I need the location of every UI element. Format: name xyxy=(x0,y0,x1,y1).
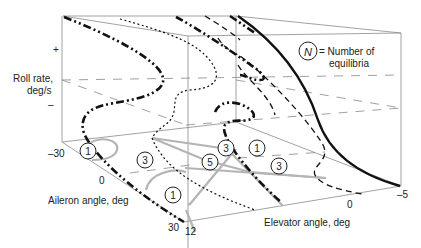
svg-text:3: 3 xyxy=(142,155,148,166)
svg-text:3: 3 xyxy=(276,161,282,172)
elevator-tick: 12 xyxy=(185,226,197,237)
tick-plus: + xyxy=(53,44,59,55)
roll-rate-label-line2: deg/s xyxy=(27,85,51,96)
dashed-curve xyxy=(238,65,275,115)
svg-text:5: 5 xyxy=(207,157,213,168)
legend-text-line2: equilibria xyxy=(329,58,369,69)
region-badge: 1 xyxy=(165,187,181,203)
aileron-axis-label: Aileron angle, deg xyxy=(48,195,129,206)
equilibrium-diagram: 1 3 1 3 5 1 3 N = Number of eq xyxy=(0,0,421,248)
zero-plane-line xyxy=(186,108,401,125)
elevator-tick: –5 xyxy=(397,189,409,200)
svg-text:1: 1 xyxy=(85,146,91,157)
zero-plane-line xyxy=(62,75,401,80)
dotted-curves xyxy=(120,19,255,210)
svg-text:1: 1 xyxy=(254,143,260,154)
svg-text:1: 1 xyxy=(170,190,176,201)
aileron-axis: –30 0 30 Aileron angle, deg xyxy=(48,148,180,233)
roll-rate-axis: + – Roll rate, deg/s xyxy=(13,44,59,110)
legend-symbol: N xyxy=(304,46,312,58)
svg-text:3: 3 xyxy=(223,143,229,154)
solid-equilibrium-curve xyxy=(238,16,400,186)
region-badge: 5 xyxy=(202,154,218,170)
aileron-tick: 30 xyxy=(168,222,180,233)
region-badge: 3 xyxy=(271,158,287,174)
aileron-tick: 0 xyxy=(99,175,105,186)
region-badge: 1 xyxy=(249,140,265,156)
elevator-tick: 0 xyxy=(347,199,353,210)
dotted-curve xyxy=(120,19,255,210)
zero-plane-line xyxy=(236,80,401,108)
region-badge: 3 xyxy=(137,152,153,168)
legend: N = Number of equilibria xyxy=(299,42,375,69)
legend-text-line1: = Number of xyxy=(319,46,375,57)
roll-rate-label-line1: Roll rate, xyxy=(13,73,53,84)
elevator-axis: 12 0 –5 Elevator angle, deg xyxy=(185,189,409,237)
aileron-tick: –30 xyxy=(48,148,65,159)
zero-plane-grid xyxy=(62,75,401,173)
elevator-axis-label: Elevator angle, deg xyxy=(264,217,350,228)
region-badge: 3 xyxy=(218,140,234,156)
tick-minus: – xyxy=(48,99,54,110)
region-badge: 1 xyxy=(80,143,96,159)
